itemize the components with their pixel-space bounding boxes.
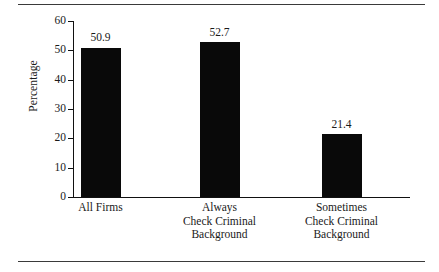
bar-chart-figure: Percentage 0102030405060 50.952.721.4 Al… [0,0,439,272]
bottom-rule [18,261,425,262]
category-label-line: All Firms [41,201,161,215]
bar-1: 50.9 [81,48,121,197]
category-label-2: AlwaysCheck CriminalBackground [160,201,280,242]
category-label-line: Always [160,201,280,215]
category-label-3: SometimesCheck CriminalBackground [282,201,402,242]
category-label-line: Background [160,228,280,242]
x-axis-line [73,197,410,198]
bar-3: 21.4 [322,134,362,197]
bar-value-label: 50.9 [90,32,110,44]
category-label-line: Check Criminal [160,215,280,229]
category-label-line: Sometimes [282,201,402,215]
category-label-line: Check Criminal [282,215,402,229]
bar-value-label: 52.7 [209,27,229,39]
top-rule [18,4,425,5]
y-tick-label: 50 [55,45,67,57]
category-label-line: Background [282,228,402,242]
y-tick-label: 60 [55,15,67,27]
bar-2: 52.7 [200,42,240,197]
y-tick-label: 10 [55,162,67,174]
y-tick-label: 40 [55,74,67,86]
bar-value-label: 21.4 [331,119,351,131]
plot-area: 50.952.721.4 [73,21,410,197]
y-axis-title: Percentage [27,31,39,141]
category-label-1: All Firms [41,201,161,215]
y-tick-label: 20 [55,133,67,145]
y-tick-label: 30 [55,103,67,115]
